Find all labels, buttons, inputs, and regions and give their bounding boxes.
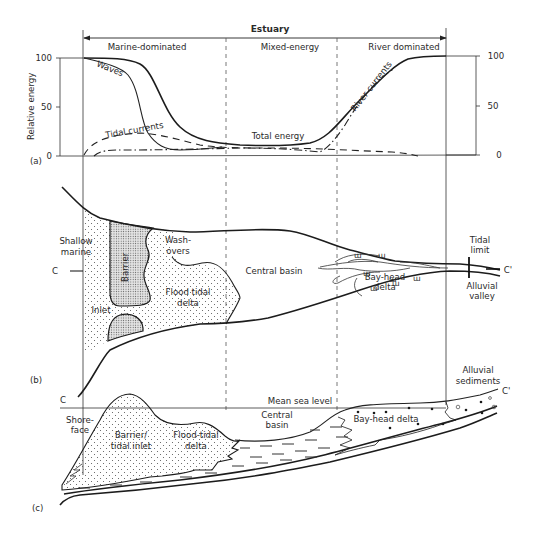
bay-head-delta-c-label: Bay-head delta	[353, 414, 418, 424]
y-axis-label: Relative energy	[26, 73, 36, 140]
section-c-prime-label: C'	[504, 265, 512, 275]
estuary-diagram: Estuary Marine-dominated Mixed-energy Ri…	[0, 0, 538, 536]
washovers-label-1: Wash-	[165, 235, 191, 245]
mean-sea-level-label: Mean sea level	[268, 396, 332, 406]
flood-tidal-delta-label-2: delta	[177, 298, 199, 308]
svg-text:ɯ: ɯ	[354, 251, 362, 260]
alluvial-sediments-label-2: sediments	[456, 376, 501, 386]
zone-marine-dominated: Marine-dominated	[108, 42, 187, 52]
tidal-limit-label-2: limit	[471, 245, 491, 255]
svg-text:ɯ: ɯ	[378, 251, 386, 260]
flood-tidal-delta-c-label-1: Flood-tidal	[173, 430, 218, 440]
central-basin-c-label-2: basin	[265, 420, 288, 430]
waves-label: Waves	[95, 59, 125, 79]
estuary-title: Estuary	[251, 24, 290, 34]
left-tick-50: 50	[41, 102, 52, 112]
shallow-marine-label-2: marine	[61, 247, 91, 257]
flood-tidal-delta-label-1: Flood tidal	[166, 287, 211, 297]
panel-b-plan-view: ɯ ɯ ɯ ɯ ɯ ɯ ɯ Shallow marine Barrier Was…	[30, 187, 512, 397]
panel-a-energy-graph: 100 50 0 Relative energy 100 50 0 Waves …	[26, 51, 504, 166]
total-energy-label: Total energy	[251, 131, 305, 141]
bay-head-delta-label-1: Bay-head	[365, 272, 406, 282]
river-currents-curve	[94, 68, 395, 156]
washovers-label-2: overs	[166, 246, 190, 256]
inlet-label: Inlet	[91, 305, 111, 315]
right-tick-100: 100	[488, 51, 504, 61]
c-section-end-label: C'	[502, 386, 510, 396]
barrier-inlet-label-1: Barrier/	[115, 430, 147, 440]
svg-text:ɯ: ɯ	[413, 274, 421, 283]
left-tick-100: 100	[36, 53, 52, 63]
panel-a-label: (a)	[30, 156, 42, 166]
flood-tidal-delta-c-label-2: delta	[185, 441, 207, 451]
zone-mixed-energy: Mixed-energy	[261, 42, 319, 52]
barrier-inlet-label-2: tidal inlet	[111, 441, 152, 451]
barrier-island	[110, 221, 153, 306]
right-tick-0: 0	[496, 150, 501, 160]
tidal-currents-label: Tidal currents	[104, 120, 165, 140]
section-c-label: C	[52, 266, 58, 276]
panel-b-label: (b)	[30, 375, 42, 385]
tidal-limit-label-1: Tidal	[469, 235, 490, 245]
central-basin-label: Central basin	[245, 266, 302, 276]
shallow-marine-label-1: Shallow	[59, 236, 92, 246]
shoreface-label-1: Shore-	[66, 415, 94, 425]
shoreface-label-2: face	[71, 425, 89, 435]
right-tick-50: 50	[488, 101, 499, 111]
central-basin-c-label-1: Central	[261, 410, 292, 420]
panel-c-label: (c)	[32, 503, 43, 513]
left-tick-0: 0	[47, 151, 52, 161]
c-section-start-label: C	[60, 395, 66, 405]
alluvial-valley-label-1: Alluvial	[466, 281, 497, 291]
river-currents-label: River currents	[349, 59, 394, 113]
barrier-label: Barrier	[120, 252, 130, 282]
alluvial-valley-label-2: valley	[469, 291, 495, 301]
panel-c-cross-section: C C' Mean sea level Shore- face Barrier/…	[32, 365, 510, 513]
estuary-header: Estuary Marine-dominated Mixed-energy Ri…	[84, 24, 446, 52]
alluvial-sediments-label-1: Alluvial	[462, 365, 493, 375]
zone-river-dominated: River dominated	[368, 42, 439, 52]
shallow-marine-area	[84, 210, 110, 353]
bay-head-delta-label-2: delta	[374, 282, 396, 292]
